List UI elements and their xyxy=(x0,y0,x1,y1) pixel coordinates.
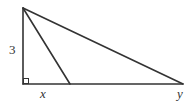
label-vertical-side: 3 xyxy=(9,42,16,57)
right-angle-marker xyxy=(24,79,29,84)
triangle-diagram: 3 x y xyxy=(0,0,193,103)
label-inner-base: x xyxy=(39,86,46,101)
label-far-vertex: y xyxy=(175,86,183,101)
